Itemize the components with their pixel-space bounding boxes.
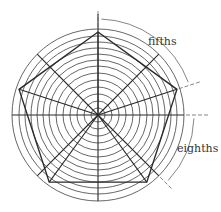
eighth-spoke [37,115,98,176]
fifth-spoke [98,115,147,182]
eighths-label: eighths [177,142,219,155]
eighth-spoke [98,115,159,176]
eighth-spoke [98,54,159,115]
radial-division-diagram: fifths eighths [0,0,221,212]
fifths-arc [101,19,188,82]
eighth-spoke [37,54,98,115]
fifth-extension-line [179,82,200,89]
fifths-label: fifths [148,35,177,48]
fifth-spoke [49,115,98,182]
